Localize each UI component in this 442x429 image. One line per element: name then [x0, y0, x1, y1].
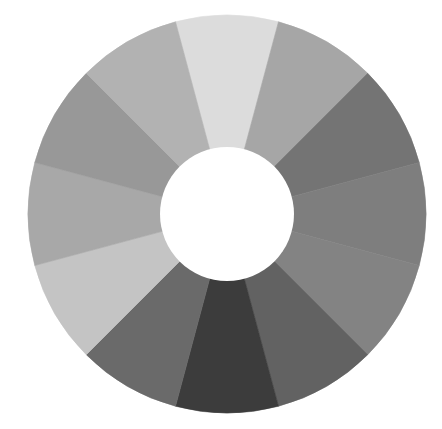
grayscale-wheel [0, 0, 442, 429]
center-hole [160, 147, 294, 281]
wheel-graphic [0, 0, 442, 429]
